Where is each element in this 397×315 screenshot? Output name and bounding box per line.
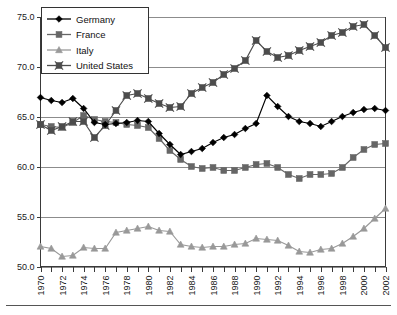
data-point [36,120,44,128]
data-point [318,172,324,178]
data-point [318,123,325,130]
data-point [360,20,368,28]
legend-label: Italy [76,45,94,56]
y-tick-label: 55.0 [17,212,35,222]
legend-marker [56,32,62,38]
data-point [285,242,292,248]
data-point [339,165,345,171]
data-point [264,161,270,167]
data-point [145,125,151,131]
data-point [242,125,249,132]
data-point [69,252,76,258]
data-point [58,122,66,130]
series-france [38,113,389,182]
data-point [339,240,346,246]
data-point [296,118,303,125]
data-point [47,126,55,134]
x-tick-label: 1972 [58,276,68,296]
series-germany [37,92,389,158]
data-point [284,51,292,59]
data-point [350,233,357,239]
data-point [166,103,174,111]
x-tick-label: 1990 [252,276,262,296]
data-point [220,70,228,78]
x-tick-label: 2002 [381,276,391,296]
y-tick-label: 60.0 [17,162,35,172]
x-tick-label: 1988 [230,276,240,296]
x-tick-label: 1984 [187,276,197,296]
data-point [199,145,206,152]
data-point [295,46,303,54]
data-point [69,117,77,125]
data-point [232,168,238,174]
data-point [123,91,131,99]
data-point [306,42,314,50]
data-point [187,89,195,97]
data-point [328,118,335,125]
data-point [253,162,259,168]
x-tick-label: 2000 [359,276,369,296]
data-point [189,164,195,170]
data-point [37,94,44,101]
data-point [59,99,66,106]
data-point [274,53,282,61]
chart-legend: GermanyFranceItalyUnited States [42,8,149,74]
data-point [307,120,314,127]
data-point [144,94,152,102]
data-point [48,97,55,104]
x-tick-label: 1992 [273,276,283,296]
data-point [329,171,335,177]
x-tick-label: 1978 [122,276,132,296]
data-point [263,47,271,55]
data-point [133,89,141,97]
data-point [253,120,260,127]
y-tick-label: 50.0 [17,262,35,272]
data-point [339,113,346,120]
data-point [167,148,173,154]
data-point [350,155,356,161]
data-point [188,148,195,155]
data-point [90,133,98,141]
x-tick-label: 1994 [295,276,305,296]
data-point [80,244,87,250]
data-point [80,117,88,125]
data-point [349,22,357,30]
data-point [252,36,260,44]
data-point [112,106,120,114]
data-point [361,147,367,153]
data-point [372,142,378,148]
data-point [37,243,44,249]
x-tick-label: 1998 [338,276,348,296]
data-point [242,240,249,246]
data-point [145,223,152,229]
data-point [210,139,217,146]
data-point [371,31,379,39]
y-tick-label: 65.0 [17,112,35,122]
data-point [230,64,238,72]
data-point [296,176,302,182]
data-point [81,113,87,119]
x-tick-label: 1996 [316,276,326,296]
data-point [253,235,260,241]
legend-label: United States [76,60,133,71]
data-point [220,134,227,141]
data-point [231,131,238,138]
data-point [338,28,346,36]
data-point [317,38,325,46]
data-point [199,166,205,172]
x-tick-label: 1970 [36,276,46,296]
data-point [350,109,357,116]
data-point [383,141,389,147]
data-point [382,107,389,114]
data-point [361,106,368,113]
x-tick-label: 1986 [209,276,219,296]
y-tick-label: 75.0 [17,12,35,22]
data-point [382,205,389,211]
data-point [286,172,292,178]
x-tick-label: 1982 [165,276,175,296]
data-point [177,102,185,110]
data-point [198,83,206,91]
data-point [241,56,249,64]
x-tick-label: 1980 [144,276,154,296]
legend-label: France [76,29,106,40]
